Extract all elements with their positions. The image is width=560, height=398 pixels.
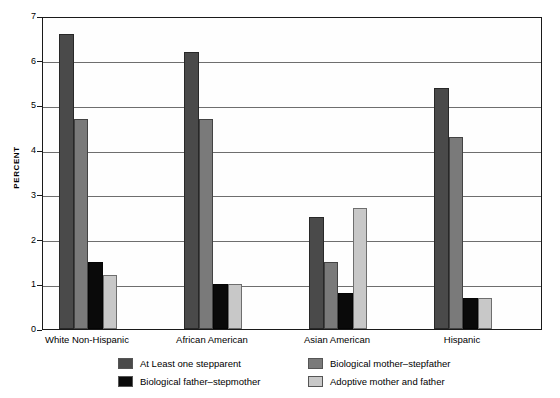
bar xyxy=(88,262,103,329)
bar xyxy=(103,275,118,329)
legend-item: At Least one stepparent xyxy=(118,358,241,369)
bar xyxy=(199,119,214,329)
gridline-5 xyxy=(43,107,541,108)
x-axis-label-3: Hispanic xyxy=(382,334,542,345)
legend-swatch-icon xyxy=(118,358,133,369)
y-tick-label-0: 0 xyxy=(18,325,36,334)
gridline-4 xyxy=(43,152,541,153)
bar xyxy=(434,88,449,329)
plot-area xyxy=(42,17,542,330)
legend-item: Adoptive mother and father xyxy=(308,376,445,387)
y-tick-label-7: 7 xyxy=(18,12,36,21)
legend-label: Adoptive mother and father xyxy=(330,376,445,387)
bar xyxy=(353,208,368,329)
chart-legend: At Least one stepparentBiological mother… xyxy=(118,358,518,392)
legend-label: At Least one stepparent xyxy=(140,358,241,369)
bar-chart-figure: PERCENT 01234567 White Non-HispanicAfric… xyxy=(0,0,560,398)
legend-item: Biological mother–stepfather xyxy=(308,358,450,369)
bar xyxy=(463,298,478,329)
y-tick-label-2: 2 xyxy=(18,236,36,245)
bar xyxy=(74,119,89,329)
bar xyxy=(213,284,228,329)
bar xyxy=(324,262,339,329)
y-tick-label-5: 5 xyxy=(18,101,36,110)
legend-label: Biological father–stepmother xyxy=(140,376,260,387)
bar xyxy=(309,217,324,329)
gridline-2 xyxy=(43,241,541,242)
legend-item: Biological father–stepmother xyxy=(118,376,260,387)
bar xyxy=(449,137,464,329)
gridline-1 xyxy=(43,286,541,287)
y-tick-label-1: 1 xyxy=(18,280,36,289)
legend-swatch-icon xyxy=(308,376,323,387)
y-tick-label-4: 4 xyxy=(18,146,36,155)
legend-swatch-icon xyxy=(118,376,133,387)
bar xyxy=(228,284,243,329)
gridline-3 xyxy=(43,196,541,197)
bar xyxy=(478,298,493,329)
bar xyxy=(338,293,353,329)
legend-swatch-icon xyxy=(308,358,323,369)
y-tick-label-3: 3 xyxy=(18,191,36,200)
legend-label: Biological mother–stepfather xyxy=(330,358,450,369)
bar xyxy=(184,52,199,329)
gridline-6 xyxy=(43,62,541,63)
y-tick-label-6: 6 xyxy=(18,57,36,66)
bar xyxy=(59,34,74,329)
